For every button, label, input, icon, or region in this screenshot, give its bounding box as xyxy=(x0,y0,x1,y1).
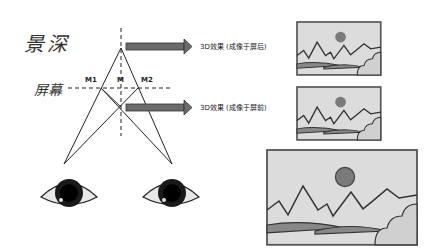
point-m-label: M xyxy=(117,76,124,84)
point-m2-label: M2 xyxy=(141,76,153,84)
arrow-in-front-of-screen xyxy=(126,100,192,115)
left-eye-icon xyxy=(41,179,97,207)
caption-behind-screen: 3D效果 (成像于屏后) xyxy=(200,41,267,51)
landscape-in-front-of-screen xyxy=(297,87,381,140)
ray-cross-2 xyxy=(64,88,138,164)
arrow-behind-screen xyxy=(126,39,192,54)
ray-cross-1 xyxy=(101,88,172,164)
landscape-behind-screen xyxy=(297,22,381,75)
diagram-title: 景深 xyxy=(24,28,70,57)
caption-in-front-of-screen: 3D效果 (成像于屏前) xyxy=(200,102,267,112)
ray-left-behind xyxy=(64,48,121,164)
point-m1-label: M1 xyxy=(85,76,97,84)
landscape-large xyxy=(267,150,417,245)
ray-segment xyxy=(101,88,121,107)
right-eye-icon xyxy=(143,179,199,207)
screen-label: 屏幕 xyxy=(34,79,62,99)
